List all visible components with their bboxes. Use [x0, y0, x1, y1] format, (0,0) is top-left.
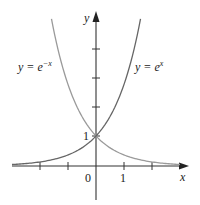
y-axis-label: y: [83, 11, 90, 25]
label-e-x: y = ex: [134, 59, 164, 74]
x-one-label: 1: [120, 171, 126, 185]
y-one-label: 1: [83, 129, 89, 143]
curve-e-neg-x: [51, 19, 180, 165]
curve-e-x: [12, 19, 141, 165]
x-axis-arrow-icon: [179, 163, 189, 170]
y-axis: [92, 11, 100, 200]
label-e-neg-x: y = e−x: [17, 59, 52, 74]
origin-label: 0: [85, 171, 91, 185]
exponential-graph: y x 0 1 1 y = e−x y = ex: [0, 0, 200, 205]
y-axis-arrow-icon: [93, 11, 100, 22]
x-axis-label: x: [179, 170, 186, 184]
